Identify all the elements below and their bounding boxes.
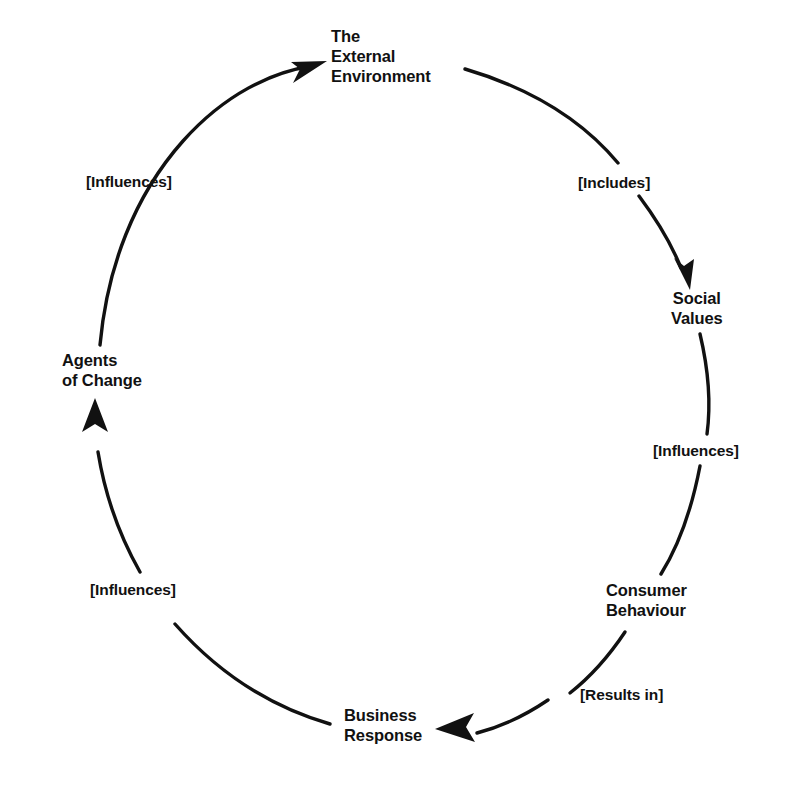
arc-business-to-influences [175, 624, 330, 724]
node-social-values: Social Values [671, 288, 723, 328]
arc-external-to-includes [465, 69, 618, 163]
cycle-diagram: The External Environment Social Values C… [0, 0, 793, 787]
arrowhead-social-values [674, 258, 694, 290]
edge-label-influences-top-left: [Influences] [86, 173, 172, 192]
arrowhead-external-environment [291, 61, 327, 83]
edge-label-includes: [Includes] [578, 174, 650, 193]
edge-label-results-in: [Results in] [580, 686, 663, 705]
node-business-response: Business Response [344, 705, 422, 745]
arc-influences-to-consumer [661, 466, 700, 574]
arc-includes-to-social-values [639, 196, 681, 268]
arc-agents-to-external [100, 66, 312, 345]
arrowhead-business-response [435, 713, 475, 742]
node-external-environment: The External Environment [331, 26, 431, 86]
arc-social-values-to-influences [700, 334, 709, 434]
cycle-arcs-svg [0, 0, 793, 787]
arc-results-to-business [477, 700, 548, 733]
arrowhead-agents-of-change [82, 398, 108, 432]
edge-label-influences-bottom-left: [Influences] [90, 581, 176, 600]
node-consumer-behaviour: Consumer Behaviour [606, 580, 687, 620]
arc-influences-to-agents [98, 452, 140, 572]
arc-consumer-to-results [570, 632, 625, 693]
node-agents-of-change: Agents of Change [62, 350, 142, 390]
edge-label-influences-right: [Influences] [653, 442, 739, 461]
